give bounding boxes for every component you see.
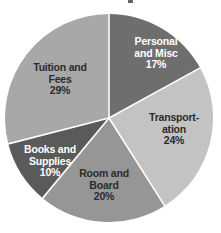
pie-chart-svg [0,0,221,233]
pie-chart-figure: Personaland Misc17%Transport-ation24%Roo… [0,0,221,233]
